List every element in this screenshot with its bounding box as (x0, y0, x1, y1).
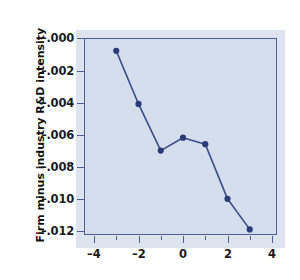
data-point (113, 48, 119, 54)
data-point (202, 141, 208, 147)
data-point (135, 101, 141, 107)
data-point (224, 196, 230, 202)
chart-figure: Firm minus industry R&D intensity –.000 … (0, 0, 300, 280)
data-series-layer (0, 0, 300, 280)
data-point (158, 147, 164, 153)
data-point (247, 226, 253, 232)
data-point (180, 135, 186, 141)
